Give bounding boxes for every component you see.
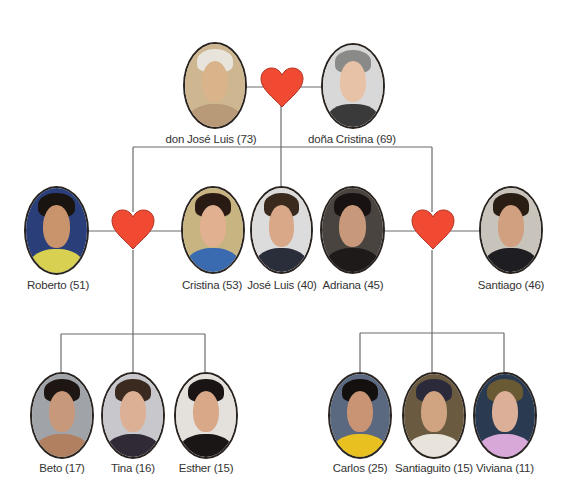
heart-icon-left-couple bbox=[110, 209, 156, 251]
portrait-santiago bbox=[479, 186, 543, 274]
label-esther: Esther (15) bbox=[179, 462, 234, 474]
heart-icon-right-couple bbox=[410, 209, 456, 251]
label-dona-cristina: doña Cristina (69) bbox=[308, 133, 396, 145]
portrait-roberto bbox=[24, 186, 89, 275]
portrait-esther bbox=[174, 372, 238, 459]
label-tina: Tina (16) bbox=[111, 462, 155, 474]
portrait-cristina bbox=[181, 186, 245, 274]
portrait-beto bbox=[30, 372, 94, 459]
label-cristina: Cristina (53) bbox=[182, 279, 242, 291]
family-tree-diagram: don José Luis (73) doña Cristina (69) Ro… bbox=[0, 0, 571, 498]
portrait-dona-cristina bbox=[321, 43, 385, 129]
portrait-carlos bbox=[328, 372, 392, 459]
label-beto: Beto (17) bbox=[39, 462, 85, 474]
label-adriana: Adriana (45) bbox=[323, 279, 384, 291]
portrait-adriana bbox=[320, 186, 385, 274]
portrait-santiaguito bbox=[402, 372, 466, 459]
label-santiago: Santiago (46) bbox=[478, 279, 544, 291]
label-santiaguito: Santiaguito (15) bbox=[395, 462, 473, 474]
label-roberto: Roberto (51) bbox=[27, 279, 89, 291]
portrait-viviana bbox=[473, 372, 537, 459]
label-jose-luis: José Luis (40) bbox=[247, 279, 316, 291]
label-viviana: Viviana (11) bbox=[476, 462, 534, 474]
portrait-don-jose-luis bbox=[183, 42, 247, 129]
label-don-jose-luis: don José Luis (73) bbox=[165, 133, 256, 145]
heart-icon-grandparents bbox=[259, 67, 305, 109]
label-carlos: Carlos (25) bbox=[333, 462, 388, 474]
portrait-tina bbox=[101, 372, 165, 459]
portrait-jose-luis bbox=[250, 186, 313, 274]
